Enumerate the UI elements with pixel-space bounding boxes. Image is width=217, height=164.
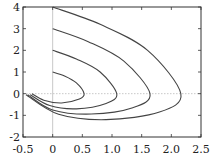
axes-box <box>23 7 201 137</box>
y-tick-label: 0 <box>13 88 20 101</box>
chart: -0.500.51.01.52.02.5 -2-101234 <box>0 0 217 164</box>
y-tick-label: 2 <box>13 44 20 57</box>
y-tick-label: -2 <box>9 131 20 144</box>
ticks <box>23 7 201 137</box>
x-tick-labels: -0.500.51.01.52.02.5 <box>12 143 209 156</box>
curves <box>26 7 181 120</box>
curve-1 <box>32 72 84 103</box>
x-tick-label: -0.5 <box>12 143 33 156</box>
y-tick-label: 3 <box>13 23 20 36</box>
x-tick-label: 0 <box>49 143 56 156</box>
y-tick-label: -1 <box>9 109 20 122</box>
y-tick-label: 1 <box>13 66 20 79</box>
x-tick-label: 2.0 <box>163 143 181 156</box>
x-tick-label: 0.5 <box>74 143 92 156</box>
reference-lines <box>23 7 201 137</box>
x-tick-label: 2.5 <box>192 143 210 156</box>
curve-4 <box>26 7 181 120</box>
y-tick-labels: -2-101234 <box>9 1 20 144</box>
x-tick-label: 1.5 <box>133 143 151 156</box>
y-tick-label: 4 <box>13 1 20 14</box>
x-tick-label: 1.0 <box>103 143 121 156</box>
